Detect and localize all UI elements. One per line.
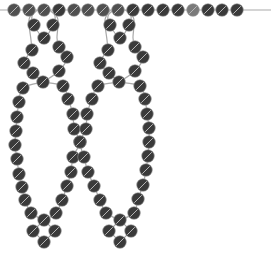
right-drop-ring-bead — [103, 67, 116, 80]
left-drop-top-loop-bead — [38, 32, 51, 45]
top-strand-bead — [112, 4, 125, 17]
left-drop-ring-bead — [53, 65, 66, 78]
left-drop-left-side-bead — [11, 111, 24, 124]
right-drop-right-side-bead — [137, 179, 150, 192]
left-drop-left-side-bead — [19, 194, 32, 207]
right-drop-left-side-bead — [74, 136, 87, 149]
left-drop-bottom-bead — [49, 225, 62, 238]
left-drop-right-side-bead — [67, 108, 80, 121]
right-drop-ring-bead — [137, 51, 150, 64]
left-drop-right-side-bead — [56, 194, 69, 207]
top-strand-bead — [142, 4, 155, 17]
right-drop-bottom-bead — [125, 225, 138, 238]
top-strand-bead — [97, 4, 110, 17]
left-drop-ring-bead — [37, 76, 50, 89]
right-drop-top-loop-bead — [104, 19, 117, 32]
right-drop-top-loop-bead — [114, 32, 127, 45]
top-strand-bead — [231, 4, 244, 17]
top-strand-bead — [53, 4, 66, 17]
left-drop-ring-bead — [26, 44, 39, 57]
right-drop-right-side-bead — [142, 150, 155, 163]
right-drop-left-side-bead — [86, 93, 99, 106]
top-strand-bead — [127, 4, 140, 17]
right-drop-left-side-bead — [78, 151, 91, 164]
right-drop-right-side-bead — [134, 80, 147, 93]
left-drop-bottom-bead — [38, 214, 51, 227]
top-strand-bead — [216, 4, 229, 17]
right-drop-right-side-bead — [132, 193, 145, 206]
top-strand-bead — [68, 4, 81, 17]
right-drop-bottom-bead — [103, 225, 116, 238]
left-drop-ring-bead — [61, 51, 74, 64]
left-drop-left-side-bead — [10, 125, 23, 138]
left-drop-right-side-bead — [68, 123, 81, 136]
top-strand-bead — [187, 4, 200, 17]
top-strand-bead — [38, 4, 51, 17]
left-drop-left-side-bead — [13, 168, 26, 181]
top-strand-bead — [172, 4, 185, 17]
right-drop-bottom-bead — [114, 214, 127, 227]
bead-pattern-canvas — [0, 0, 271, 262]
left-drop-right-side-bead — [50, 207, 63, 220]
right-drop-left-side-bead — [92, 80, 105, 93]
top-strand-bead — [8, 4, 21, 17]
left-drop-ring-bead — [27, 67, 40, 80]
left-drop-bottom-bead — [38, 236, 51, 249]
right-drop-right-side-bead — [143, 122, 156, 135]
right-drop-ring-bead — [94, 57, 107, 70]
left-drop-top-loop-bead — [47, 19, 60, 32]
top-strand-bead — [23, 4, 36, 17]
left-drop-left-side-bead — [16, 181, 29, 194]
right-drop-ring-bead — [129, 65, 142, 78]
right-drop-top-loop-bead — [123, 19, 136, 32]
beading-diagram — [0, 0, 271, 262]
right-drop-left-side-bead — [100, 207, 113, 220]
left-drop-ring-bead — [53, 41, 66, 54]
left-drop-ring-bead — [18, 57, 31, 70]
left-drop-left-side-bead — [9, 139, 22, 152]
right-drop-left-side-bead — [80, 123, 93, 136]
right-drop-bottom-bead — [114, 236, 127, 249]
left-drop-left-side-bead — [11, 153, 24, 166]
left-drop-left-side-bead — [17, 82, 30, 95]
top-strand-bead — [202, 4, 215, 17]
right-drop-right-side-bead — [140, 164, 153, 177]
left-drop-bottom-bead — [27, 225, 40, 238]
right-drop-right-side-bead — [141, 108, 154, 121]
right-drop-right-side-bead — [128, 207, 141, 220]
left-drop-right-side-bead — [65, 166, 78, 179]
right-drop-left-side-bead — [88, 180, 101, 193]
top-strand-bead — [82, 4, 95, 17]
left-drop-right-side-bead — [62, 93, 75, 106]
left-drop-right-side-bead — [61, 180, 74, 193]
right-drop-right-side-bead — [143, 136, 156, 149]
right-drop-left-side-bead — [94, 194, 107, 207]
left-drop-left-side-bead — [25, 207, 38, 220]
right-drop-left-side-bead — [82, 166, 95, 179]
left-drop-left-side-bead — [13, 96, 26, 109]
right-drop-ring-bead — [102, 44, 115, 57]
right-drop-ring-bead — [113, 76, 126, 89]
top-strand-bead — [157, 4, 170, 17]
left-drop-top-loop-bead — [28, 19, 41, 32]
right-drop-left-side-bead — [81, 108, 94, 121]
right-drop-right-side-bead — [139, 93, 152, 106]
left-drop-right-side-bead — [57, 80, 70, 93]
right-drop-ring-bead — [129, 41, 142, 54]
